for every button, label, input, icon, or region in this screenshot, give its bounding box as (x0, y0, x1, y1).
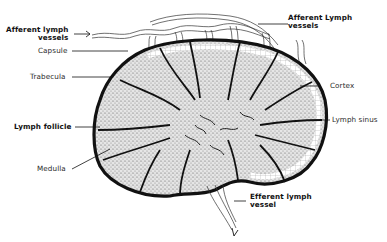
label-afferent-left: Afferent lymph vessels (6, 26, 68, 42)
label-lymph-follicle: Lymph follicle (14, 123, 72, 131)
label-afferent-right: Afferent Lymph vessels (288, 14, 352, 30)
label-afferent-right-line2: vessels (288, 22, 352, 30)
label-efferent-line2: vessel (250, 201, 312, 209)
label-capsule: Capsule (38, 47, 67, 55)
label-trabecula: Trabecula (30, 73, 66, 81)
label-medulla: Medulla (37, 165, 66, 173)
label-lymph-sinus: Lymph sinus (332, 116, 378, 124)
label-cortex: Cortex (330, 82, 354, 90)
label-afferent-left-line2: vessels (6, 34, 68, 42)
label-efferent: Efferent lymph vessel (250, 193, 312, 209)
